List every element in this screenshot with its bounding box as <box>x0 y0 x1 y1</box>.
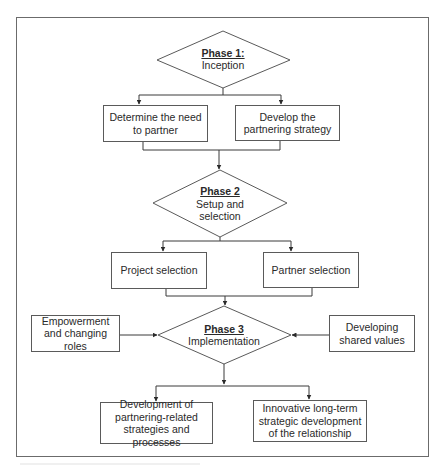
development-strategies-label: Development of partnering-related strate… <box>104 398 209 448</box>
determine-need-label: Determine the need to partner <box>107 111 204 136</box>
phase3-subtitle: Implementation <box>188 335 260 348</box>
shared-values-box: Developing shared values <box>329 315 415 352</box>
partner-selection-label: Partner selection <box>272 264 351 277</box>
innovative-development-box: Innovative long-term strategic developme… <box>253 400 367 442</box>
develop-strategy-label: Develop the partnering strategy <box>239 111 336 136</box>
phase1-title: Phase 1: <box>201 47 244 60</box>
phase3-label: Phase 3 Implementation <box>180 320 268 350</box>
project-selection-label: Project selection <box>120 264 197 277</box>
caption-remnant <box>20 463 200 465</box>
phase3-title: Phase 3 <box>204 323 244 336</box>
determine-need-box: Determine the need to partner <box>103 105 208 142</box>
shared-values-label: Developing shared values <box>333 321 411 346</box>
innovative-development-label: Innovative long-term strategic developme… <box>257 402 363 440</box>
phase2-label: Phase 2 Setup and selection <box>176 183 264 225</box>
phase1-subtitle: Inception <box>202 59 245 72</box>
phase1-label: Phase 1: Inception <box>180 44 266 74</box>
empowerment-box: Empowerment and changing roles <box>31 315 120 352</box>
phase2-subtitle-line1: Setup and <box>196 198 244 211</box>
develop-strategy-box: Develop the partnering strategy <box>235 105 340 141</box>
project-selection-box: Project selection <box>111 252 207 289</box>
empowerment-label: Empowerment and changing roles <box>35 315 116 353</box>
partner-selection-box: Partner selection <box>263 252 359 288</box>
development-strategies-box: Development of partnering-related strate… <box>100 402 213 444</box>
phase2-title: Phase 2 <box>200 185 240 198</box>
phase2-subtitle-line2: selection <box>199 210 240 223</box>
